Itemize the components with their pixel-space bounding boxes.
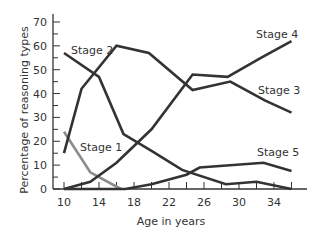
series-line-stage-3 bbox=[64, 46, 292, 153]
line-chart: 010203040506070 10141822263034 Stage 1St… bbox=[0, 0, 316, 238]
x-tick-label: 14 bbox=[92, 196, 106, 209]
y-axis-title: Percentage of reasoning types bbox=[18, 26, 31, 194]
x-tick-label: 18 bbox=[127, 196, 141, 209]
series-label-stage-2: Stage 2 bbox=[71, 44, 113, 57]
y-tick-label: 10 bbox=[33, 159, 47, 172]
series-label-stage-3: Stage 3 bbox=[258, 84, 300, 97]
x-axis-title: Age in years bbox=[137, 215, 206, 228]
y-tick-label: 30 bbox=[33, 111, 47, 124]
y-tick-label: 20 bbox=[33, 135, 47, 148]
series-line-stage-2 bbox=[64, 53, 292, 189]
y-tick-label: 0 bbox=[40, 183, 47, 196]
x-tick-label: 34 bbox=[267, 196, 281, 209]
y-tick-label: 60 bbox=[33, 40, 47, 53]
x-tick-label: 30 bbox=[232, 196, 246, 209]
x-axis: 10141822263034 bbox=[53, 182, 307, 209]
series-lines: Stage 1Stage 2Stage 3Stage 4Stage 5 bbox=[64, 28, 300, 189]
x-tick-label: 22 bbox=[162, 196, 176, 209]
y-tick-label: 40 bbox=[33, 88, 47, 101]
y-tick-label: 50 bbox=[33, 64, 47, 77]
series-label-stage-1: Stage 1 bbox=[80, 141, 122, 154]
x-tick-label: 10 bbox=[57, 196, 71, 209]
series-label-stage-4: Stage 4 bbox=[256, 28, 298, 41]
series-label-stage-5: Stage 5 bbox=[257, 146, 299, 159]
y-tick-label: 70 bbox=[33, 16, 47, 29]
x-tick-label: 26 bbox=[197, 196, 211, 209]
y-axis: 010203040506070 bbox=[33, 14, 60, 196]
